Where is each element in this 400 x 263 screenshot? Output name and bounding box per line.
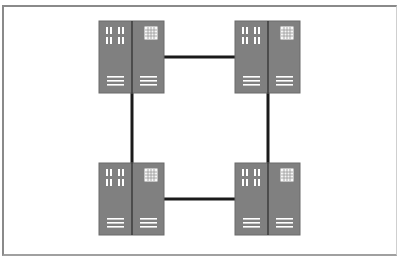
nodes-layer	[99, 21, 300, 235]
server-rack-icon[interactable]	[235, 163, 300, 235]
server-rack-icon[interactable]	[99, 163, 164, 235]
grid-window	[145, 169, 157, 181]
grid-window	[281, 169, 293, 181]
grid-window	[145, 27, 157, 39]
grid-window	[281, 27, 293, 39]
network-diagram	[0, 0, 400, 263]
server-rack-icon[interactable]	[99, 21, 164, 93]
server-rack-icon[interactable]	[235, 21, 300, 93]
